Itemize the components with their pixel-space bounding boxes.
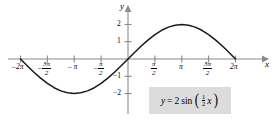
right-paren: ) — [214, 93, 218, 107]
denominator: 2 — [151, 70, 157, 77]
denominator: 2 — [203, 70, 212, 77]
one-half-fraction: 1 2 — [202, 94, 205, 108]
y-axis-label: y — [120, 2, 124, 11]
fraction: π 2 — [151, 61, 157, 77]
x-tick-text: 2π — [16, 62, 24, 71]
equals-sign: = — [167, 96, 172, 106]
numerator: π — [151, 61, 157, 68]
denominator: 2 — [98, 70, 104, 77]
y-tick-label-neg2: −2 — [113, 89, 121, 97]
x-tick-label-pi: π — [179, 63, 183, 71]
x-tick-label-pi-over-2: π 2 — [151, 61, 157, 77]
chart-figure: y x 2 1 −1 −2 −2π − 3π 2 − π − π 2 π — [0, 0, 277, 121]
equation-function: sin — [181, 96, 192, 106]
denominator: 2 — [202, 101, 205, 108]
equation-text: y = 2 sin ( 1 2 x ) — [161, 93, 219, 107]
y-tick-label-neg1: −1 — [113, 72, 121, 80]
x-tick-text: π — [74, 62, 78, 71]
x-tick-label-neg-pi-over-2: − π 2 — [93, 61, 104, 77]
numerator: 3π — [203, 61, 212, 68]
equation-coefficient: 2 — [174, 96, 179, 106]
x-axis-label: x — [265, 60, 269, 69]
left-paren: ( — [195, 93, 199, 107]
minus-sign: − — [67, 64, 72, 72]
x-tick-label-neg-2pi: −2π — [11, 63, 24, 71]
equation-lhs: y — [161, 96, 165, 106]
fraction: 3π 2 — [42, 61, 51, 77]
equation-box: y = 2 sin ( 1 2 x ) — [149, 87, 231, 114]
y-tick-label-2: 2 — [117, 20, 121, 28]
denominator: 2 — [42, 70, 51, 77]
numerator: 3π — [42, 61, 51, 68]
equation-variable: x — [207, 96, 211, 106]
x-tick-label-neg-3pi-over-2: − 3π 2 — [37, 61, 51, 77]
fraction: π 2 — [98, 61, 104, 77]
fraction: 3π 2 — [203, 61, 212, 77]
y-axis-arrowhead — [125, 5, 132, 12]
x-tick-label-2pi: 2π — [230, 63, 238, 71]
y-tick-label-1: 1 — [117, 37, 121, 45]
x-tick-label-neg-pi: − π — [67, 63, 77, 71]
numerator: π — [98, 61, 104, 68]
x-tick-label-3pi-over-2: 3π 2 — [203, 61, 212, 77]
